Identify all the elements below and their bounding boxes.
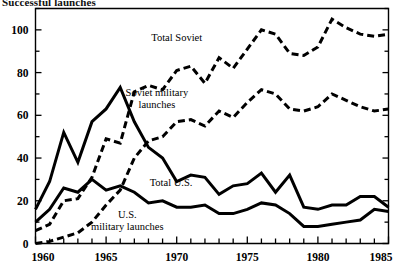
x-axis-tick-label: 1980	[306, 251, 329, 263]
y-axis-tick-label: 0	[23, 238, 29, 250]
series-label-line: military launches	[91, 221, 164, 232]
x-axis-tick-label: 1965	[95, 251, 118, 263]
x-axis-tick-label: 1960	[32, 251, 55, 263]
series-label-3: U.S.military launches	[91, 209, 164, 232]
series-label-line: U.S.	[118, 209, 137, 220]
chart-figure: Successful launches 02040608010019601965…	[0, 0, 411, 271]
series-label-line: Soviet military	[126, 87, 189, 98]
series-label-0: Total Soviet	[151, 32, 202, 43]
y-axis-tick-label: 100	[11, 24, 29, 36]
series-label-line: Total U.S.	[150, 177, 193, 188]
series-label-line: launches	[139, 99, 176, 110]
x-axis-tick-label: 1985	[370, 251, 393, 263]
x-axis-tick-label: 1970	[165, 251, 188, 263]
y-axis-tick-label: 60	[17, 109, 29, 121]
y-axis-tick-label: 40	[17, 152, 29, 164]
y-axis-tick-label: 80	[17, 67, 29, 79]
series-label-2: Total U.S.	[150, 177, 193, 188]
line-chart-canvas: 020406080100196019651970197519801985Tota…	[0, 0, 411, 271]
series-line-0	[36, 19, 389, 231]
x-axis-tick-label: 1975	[236, 251, 259, 263]
series-label-line: Total Soviet	[151, 32, 202, 43]
series-line-1	[36, 90, 389, 244]
series-label-1: Soviet militarylaunches	[126, 87, 189, 110]
y-axis-tick-label: 20	[17, 195, 29, 207]
series-line-2	[36, 88, 389, 210]
